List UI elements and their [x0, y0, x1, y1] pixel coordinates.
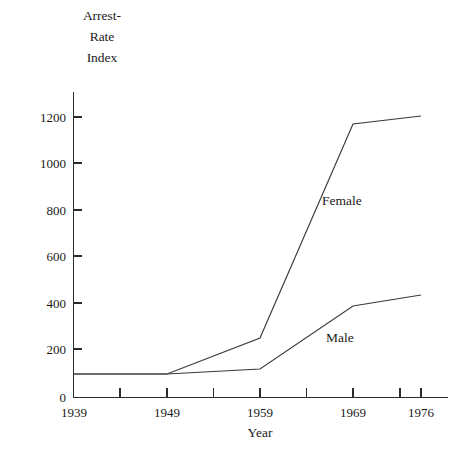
y-tick-label-600: 600	[47, 249, 67, 264]
x-axis-title: Year	[248, 425, 273, 440]
series-label-female: Female	[322, 193, 362, 208]
y-tick-label-800: 800	[47, 203, 67, 218]
chart-title-line-2: Rate	[90, 29, 115, 44]
chart-title-line-1: Arrest-	[83, 8, 122, 23]
series-line-male	[74, 295, 422, 374]
y-axis-ticks	[74, 117, 83, 349]
series-line-female	[74, 116, 422, 374]
x-tick-label-1969: 1969	[340, 405, 366, 420]
axes	[74, 92, 449, 398]
chart-title: Arrest- Rate Index	[83, 8, 122, 65]
y-tick-label-400: 400	[47, 296, 67, 311]
y-tick-label-1000: 1000	[40, 156, 66, 171]
y-tick-label-1200: 1200	[40, 110, 66, 125]
line-chart: Arrest- Rate Index 1200 1000 800 600 400…	[0, 0, 476, 458]
x-axis-tick-labels: 1939 1949 1959 1969 1976	[61, 405, 435, 420]
chart-title-line-3: Index	[87, 50, 118, 65]
x-tick-label-1959: 1959	[247, 405, 273, 420]
x-tick-label-1939: 1939	[61, 405, 87, 420]
x-axis-ticks	[74, 388, 422, 398]
x-tick-label-1976: 1976	[408, 405, 435, 420]
x-tick-label-1949: 1949	[154, 405, 180, 420]
y-axis-tick-labels: 1200 1000 800 600 400 200 0	[40, 110, 66, 405]
y-tick-label-0: 0	[60, 390, 67, 405]
chart-container: Arrest- Rate Index 1200 1000 800 600 400…	[0, 0, 476, 458]
series-label-male: Male	[326, 330, 354, 345]
y-tick-label-200: 200	[47, 342, 67, 357]
